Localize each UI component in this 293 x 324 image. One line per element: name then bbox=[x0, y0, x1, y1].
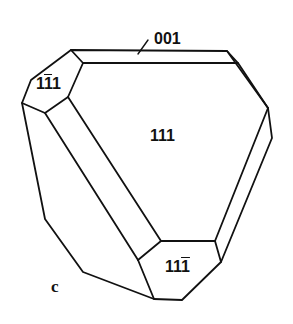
index-l-barred: 1 bbox=[181, 258, 190, 275]
face-label-1m11: 111 bbox=[36, 76, 61, 92]
face-label-11m1: 111 bbox=[165, 259, 190, 275]
leader-line-001 bbox=[138, 40, 148, 54]
face-label-001: 001 bbox=[154, 31, 181, 47]
index-h: 1 bbox=[165, 258, 173, 275]
index-l: 1 bbox=[52, 75, 61, 92]
index-k-barred: 1 bbox=[44, 75, 52, 92]
index-k: 1 bbox=[173, 258, 181, 275]
panel-label: c bbox=[51, 279, 59, 295]
index-h: 1 bbox=[36, 75, 44, 92]
face-label-111: 111 bbox=[150, 128, 175, 144]
face-001-inner-edge bbox=[71, 50, 238, 63]
crystal-outline bbox=[0, 0, 293, 324]
crystal-diagram: 001 111 111 111 c bbox=[0, 0, 293, 324]
